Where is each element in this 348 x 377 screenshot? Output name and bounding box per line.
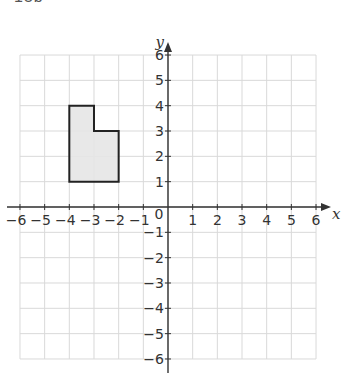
y-tick-label: −1: [143, 224, 164, 240]
y-axis-arrow-icon: [164, 42, 172, 52]
x-tick-label: 3: [238, 212, 247, 228]
coordinate-plane: −6−5−4−3−2−1123456−6−5−4−3−2−11234560xy: [0, 0, 348, 377]
coordinate-grid-figure: 15b −6−5−4−3−2−1123456−6−5−4−3−2−1123456…: [0, 0, 348, 377]
x-tick-label: 6: [312, 212, 321, 228]
y-tick-label: −6: [143, 351, 164, 367]
shaded-polygon: [69, 106, 118, 182]
y-tick-label: −3: [143, 275, 164, 291]
y-tick-label: −2: [143, 250, 164, 266]
x-tick-label: −3: [80, 212, 101, 228]
x-tick-label: −5: [30, 212, 51, 228]
y-tick-label: 3: [155, 123, 164, 139]
cut-off-question-number: 15b: [14, 0, 44, 3]
origin-label: 0: [155, 206, 164, 222]
axes: [7, 42, 331, 373]
y-tick-label: 5: [155, 72, 164, 88]
x-axis-label: x: [332, 205, 341, 223]
x-tick-label: 5: [287, 212, 296, 228]
y-tick-label: 2: [155, 148, 164, 164]
x-tick-label: −4: [55, 212, 76, 228]
x-tick-label: 1: [188, 212, 197, 228]
y-tick-label: 4: [155, 98, 164, 114]
tick-labels: −6−5−4−3−2−1123456−6−5−4−3−2−11234560xy: [6, 33, 341, 367]
y-axis-label: y: [155, 33, 165, 51]
x-tick-label: −2: [104, 212, 125, 228]
x-tick-label: 2: [213, 212, 222, 228]
x-tick-label: 4: [262, 212, 271, 228]
shaded-shape: [69, 106, 118, 182]
y-tick-label: 1: [155, 174, 164, 190]
x-tick-label: −6: [6, 212, 27, 228]
y-tick-label: −4: [143, 300, 164, 316]
x-axis-arrow-icon: [321, 203, 331, 211]
y-tick-label: −5: [143, 326, 164, 342]
